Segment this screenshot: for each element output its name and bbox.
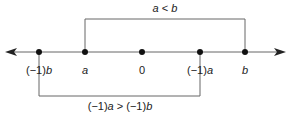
top-inequality-label: a < b xyxy=(153,2,178,14)
point-b xyxy=(242,49,248,55)
point-neg-b xyxy=(36,49,42,55)
label-zero: 0 xyxy=(139,64,145,76)
label-b: b xyxy=(242,64,248,76)
top-bracket xyxy=(85,19,245,50)
point-neg-a xyxy=(197,49,203,55)
bottom-bracket xyxy=(39,54,200,96)
bottom-inequality-label: (−1)a > (−1)b xyxy=(88,100,153,112)
point-zero xyxy=(139,49,145,55)
point-a xyxy=(82,49,88,55)
label-a: a xyxy=(82,64,88,76)
number-line-diagram: (−1)b a 0 (−1)a b a < b (−1)a > (−1)b xyxy=(0,0,290,120)
label-neg-b: (−1)b xyxy=(26,64,52,76)
label-neg-a: (−1)a xyxy=(187,64,213,76)
